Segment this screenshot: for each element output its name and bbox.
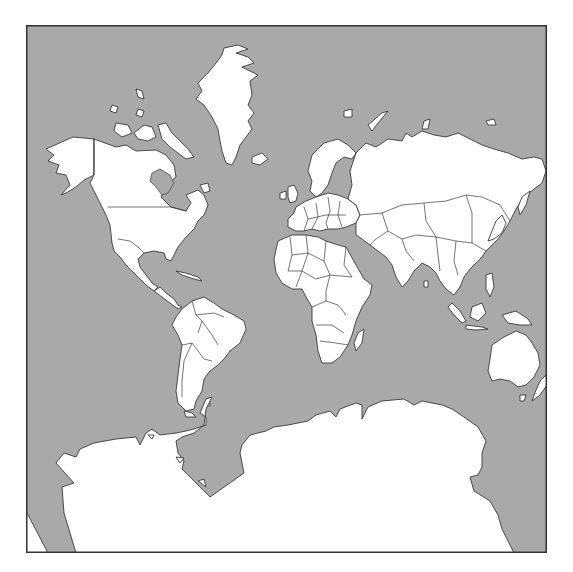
sri-lanka — [424, 281, 428, 287]
arctic-island-3 — [136, 109, 144, 117]
world-map — [26, 25, 547, 553]
arctic-island-2 — [110, 105, 118, 113]
